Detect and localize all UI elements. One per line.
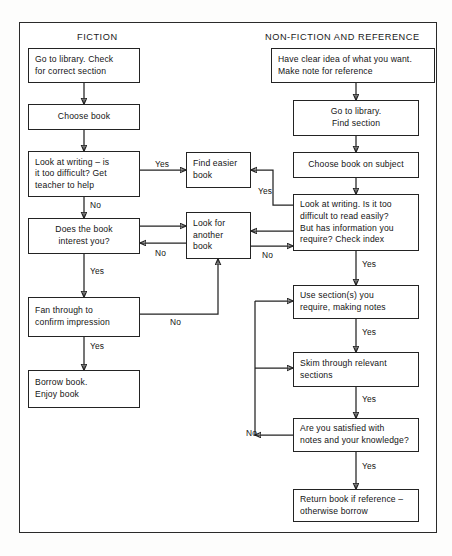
node-fan-through: Fan through to confirm impression xyxy=(28,297,140,337)
node-find-easier-book: Find easier book xyxy=(186,152,251,188)
edge-label-satisfied-yes: Yes xyxy=(362,461,376,471)
node-skim-through: Skim through relevant sections xyxy=(293,352,419,387)
edge-label-fan-no: No xyxy=(170,317,181,327)
node-choose-book: Choose book xyxy=(28,104,140,130)
edge-label-satisfied-no: No xyxy=(246,428,257,438)
node-have-clear-idea: Have clear idea of what you want. Make n… xyxy=(271,48,435,83)
edge-label-skim-yes: Yes xyxy=(362,394,376,404)
edge-label-fiction-writing-no: No xyxy=(90,200,101,210)
node-go-to-library-check: Go to library. Check for correct section xyxy=(28,48,140,83)
node-look-at-writing-fiction: Look at writing – is it too difficult? G… xyxy=(28,151,140,197)
node-look-at-writing-nonfiction: Look at writing. Is it too difficult to … xyxy=(293,194,419,251)
column-title-fiction: FICTION xyxy=(77,32,118,42)
edge-label-nonfiction-index-yes: Yes xyxy=(362,259,376,269)
node-borrow-book: Borrow book. Enjoy book xyxy=(28,370,140,408)
node-go-to-library-find: Go to library. Find section xyxy=(293,100,419,136)
flowchart-canvas: FICTION NON-FICTION AND REFERENCE xyxy=(0,0,452,556)
edge-label-use-sections-yes: Yes xyxy=(362,327,376,337)
node-are-you-satisfied: Are you satisfied with notes and your kn… xyxy=(293,418,419,452)
edge-label-nonfiction-writing-yes: Yes xyxy=(258,186,272,196)
node-use-sections: Use section(s) you require, making notes xyxy=(293,285,419,319)
edge-label-fiction-writing-yes: Yes xyxy=(155,159,169,169)
edge-label-nonfiction-writing-no: No xyxy=(262,250,273,260)
column-title-non-fiction: NON-FICTION AND REFERENCE xyxy=(265,32,420,42)
node-does-book-interest: Does the book interest you? xyxy=(28,218,140,254)
node-look-for-another-book: Look for another book xyxy=(186,212,251,259)
edge-label-interest-no: No xyxy=(155,248,166,258)
edge-label-fan-yes: Yes xyxy=(90,341,104,351)
node-return-book: Return book if reference – otherwise bor… xyxy=(293,489,419,522)
edge-label-interest-yes: Yes xyxy=(90,266,104,276)
flowchart-frame xyxy=(19,22,437,533)
node-choose-book-on-subject: Choose book on subject xyxy=(293,152,419,178)
